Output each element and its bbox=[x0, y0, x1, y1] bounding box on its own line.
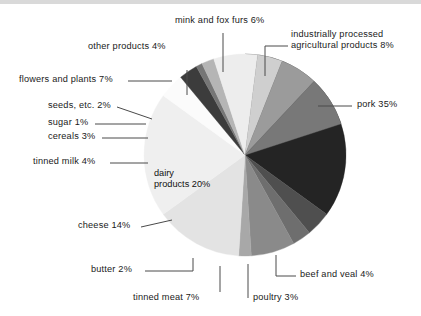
label-dairy-products-line1: dairy bbox=[154, 168, 240, 179]
label-tinned-meat: tinned meat 7% bbox=[133, 292, 199, 303]
label-industrially-processed-line2: agricultural products 8% bbox=[291, 40, 394, 51]
label-poultry: poultry 3% bbox=[253, 292, 298, 303]
label-seeds-etc: seeds, etc. 2% bbox=[48, 100, 111, 111]
label-sugar: sugar 1% bbox=[48, 117, 88, 128]
pie-slices-group bbox=[144, 54, 346, 256]
label-dairy-products-line2: products 20% bbox=[154, 179, 240, 190]
label-flowers-and-plants: flowers and plants 7% bbox=[19, 74, 113, 85]
pie-chart-figure: mink and fox furs 6% industrially proces… bbox=[0, 0, 421, 316]
label-beef-and-veal: beef and veal 4% bbox=[300, 269, 374, 280]
label-other-products: other products 4% bbox=[88, 41, 166, 52]
leader-cheese bbox=[141, 220, 172, 227]
label-industrially-processed-line1: industrially processed bbox=[291, 29, 383, 40]
label-cheese: cheese 14% bbox=[78, 220, 130, 231]
label-butter: butter 2% bbox=[91, 264, 132, 275]
label-cereals: cereals 3% bbox=[48, 131, 95, 142]
leader-seeds-etc bbox=[117, 107, 152, 119]
label-tinned-milk: tinned milk 4% bbox=[33, 156, 95, 167]
label-mink-and-fox-furs: mink and fox furs 6% bbox=[175, 15, 264, 26]
label-pork: pork 35% bbox=[357, 99, 397, 110]
